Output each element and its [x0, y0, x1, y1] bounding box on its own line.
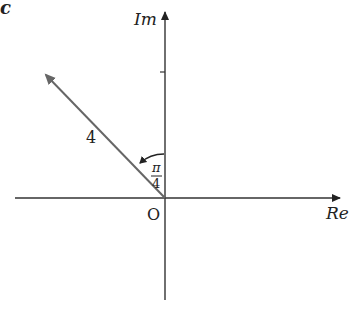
panel-label: c	[0, 0, 11, 18]
im-axis-label: Im	[133, 9, 157, 29]
magnitude-label: 4	[86, 128, 96, 147]
argand-diagram: c Im Re O 4 π 4	[0, 0, 355, 327]
angle-numerator: π	[151, 160, 161, 175]
angle-denominator: 4	[152, 176, 160, 191]
re-axis-label: Re	[325, 203, 349, 223]
origin-label: O	[147, 205, 160, 224]
vector-arrow	[46, 75, 165, 198]
